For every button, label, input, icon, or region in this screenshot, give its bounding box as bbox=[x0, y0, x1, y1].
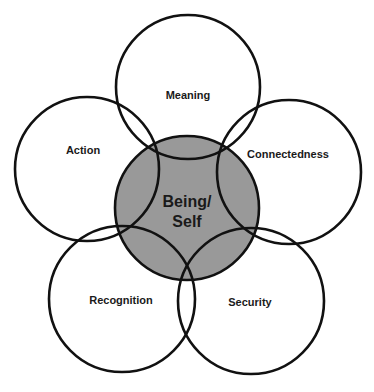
self-label: Self bbox=[172, 213, 202, 230]
action-label: Action bbox=[66, 144, 101, 156]
meaning-label: Meaning bbox=[166, 89, 211, 101]
security-label: Security bbox=[228, 296, 272, 308]
being-label: Being/ bbox=[163, 193, 212, 210]
five-circle-diagram: Meaning Action Connectedness Recognition… bbox=[0, 0, 374, 392]
recognition-label: Recognition bbox=[89, 294, 153, 306]
connectedness-label: Connectedness bbox=[247, 148, 329, 160]
